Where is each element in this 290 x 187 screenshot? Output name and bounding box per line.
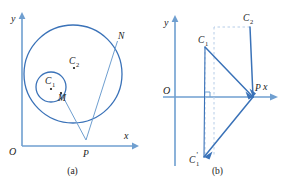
segment-c1-to-p xyxy=(205,47,253,97)
segment-p-to-n xyxy=(86,41,118,140)
point-label-c2: C 2 xyxy=(69,56,79,68)
panel-a: y x O C 2 C 1 M N P (a) xyxy=(0,0,145,187)
segment-p-to-c1prime xyxy=(204,97,253,157)
panel-b-caption: (b) xyxy=(145,166,290,176)
origin-label: O xyxy=(163,85,170,96)
y-axis-label: y xyxy=(10,13,16,24)
svg-text:C: C xyxy=(69,56,76,66)
segment-c1-to-c1prime xyxy=(204,47,205,157)
point-label-p: P xyxy=(82,149,89,159)
x-axis-arrowhead xyxy=(270,94,278,101)
point-dot-c2 xyxy=(73,67,75,69)
svg-text:2: 2 xyxy=(76,61,79,68)
x-axis-label: x xyxy=(262,81,268,92)
point-label-m: M xyxy=(57,93,67,103)
segment-c2-to-p xyxy=(250,27,253,97)
svg-text:C: C xyxy=(45,76,52,86)
x-axis-label: x xyxy=(123,130,129,141)
panel-a-svg: y x O C 2 C 1 M N P xyxy=(0,0,145,187)
svg-text:C: C xyxy=(198,35,205,45)
y-axis-arrowhead xyxy=(19,12,26,19)
svg-text:1: 1 xyxy=(52,81,55,88)
y-axis-label: y xyxy=(163,17,169,28)
origin-label: O xyxy=(9,146,16,157)
point-label-c1: C 1 xyxy=(198,35,208,47)
svg-text:C: C xyxy=(189,155,196,165)
svg-text:C: C xyxy=(243,13,250,23)
panel-a-caption: (a) xyxy=(0,166,145,176)
y-axis-arrowhead xyxy=(172,15,179,22)
svg-text:2: 2 xyxy=(250,18,253,25)
x-axis-arrowhead xyxy=(132,143,139,150)
panel-b-segments xyxy=(204,27,253,157)
dashed-construction-lines xyxy=(205,27,250,157)
svg-text:1: 1 xyxy=(205,40,208,47)
panel-b-svg: y x O C 2 C 1 P C 1 ' xyxy=(145,0,290,187)
point-label-n: N xyxy=(117,31,125,41)
point-label-p: P xyxy=(254,83,261,93)
figure-container: y x O C 2 C 1 M N P (a) xyxy=(0,0,290,187)
panel-b: y x O C 2 C 1 P C 1 ' (b) xyxy=(145,0,290,187)
svg-text:': ' xyxy=(197,151,199,160)
point-label-c1-prime: C 1 ' xyxy=(189,151,199,167)
point-label-c1: C 1 xyxy=(45,76,55,88)
point-label-c2: C 2 xyxy=(243,13,253,25)
point-dot-c1 xyxy=(50,88,52,90)
